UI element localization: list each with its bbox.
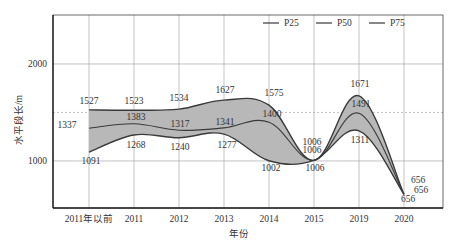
data-label: 1002 xyxy=(262,163,281,173)
x-tick-label: 2014 xyxy=(260,214,279,224)
plot-area: 100020002011年以前2011201220132014201520192… xyxy=(13,15,443,239)
data-label: 1268 xyxy=(127,140,146,150)
x-axis-title: 年份 xyxy=(229,228,249,239)
data-label: 1277 xyxy=(218,140,237,150)
data-label: 1400 xyxy=(263,109,282,119)
data-label: 1091 xyxy=(82,156,101,166)
x-tick-label: 2019 xyxy=(350,214,369,224)
x-tick-label: 2020 xyxy=(395,214,414,224)
data-label: 1534 xyxy=(170,93,189,103)
data-label: 1311 xyxy=(351,135,370,145)
data-label: 656 xyxy=(411,175,426,185)
data-label: 656 xyxy=(401,194,416,204)
data-label: 1341 xyxy=(216,117,235,127)
legend-label-p25: P25 xyxy=(284,18,299,28)
data-label: 1527 xyxy=(80,96,99,106)
x-tick-label: 2013 xyxy=(215,214,234,224)
data-label: 1523 xyxy=(125,96,144,106)
data-label: 1627 xyxy=(216,85,235,95)
y-tick-label: 2000 xyxy=(28,59,47,69)
data-label: 1240 xyxy=(171,142,190,152)
y-tick-label: 1000 xyxy=(28,156,47,166)
data-label: 1491 xyxy=(352,99,371,109)
x-tick-label: 2015 xyxy=(305,214,324,224)
data-label: 1006 xyxy=(303,145,322,155)
legend-label-p50: P50 xyxy=(337,18,352,28)
data-label: 1317 xyxy=(171,119,190,129)
legend-label-p75: P75 xyxy=(390,18,405,28)
chart-figure: 100020002011年以前2011201220132014201520192… xyxy=(0,0,454,251)
data-label: 1671 xyxy=(351,79,370,89)
data-label: 1383 xyxy=(127,112,146,122)
data-label: 1006 xyxy=(306,163,325,173)
data-label: 1575 xyxy=(265,88,284,98)
x-tick-label: 2012 xyxy=(170,214,189,224)
y-axis-title: 水平段长/m xyxy=(13,94,24,145)
data-label: 656 xyxy=(414,185,429,195)
x-tick-label: 2011年以前 xyxy=(65,213,114,224)
data-label: 1337 xyxy=(58,120,77,130)
x-tick-label: 2011 xyxy=(125,214,144,224)
